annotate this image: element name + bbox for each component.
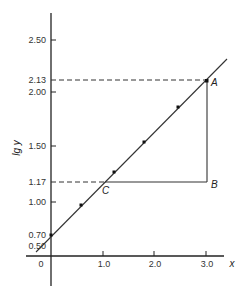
x-tick-origin: 0: [38, 259, 43, 269]
y-tick-2.50: 2.50: [28, 35, 46, 45]
x-tick-1.0: 1.0: [98, 259, 111, 269]
data-point: [50, 234, 53, 237]
data-point: [177, 106, 180, 109]
fit-line: [36, 59, 227, 252]
y-tick-2.00: 2.00: [28, 87, 46, 97]
y-tick-1.00: 1.00: [28, 197, 46, 207]
y-tick-1.17: 1.17: [28, 177, 46, 187]
point-b-label: B: [211, 179, 218, 190]
y-ticks: [51, 40, 56, 202]
chart: 2.50 2.13 2.00 1.50 1.17 1.00 0.70 0.50 …: [0, 0, 248, 297]
x-tick-3.0: 3.0: [201, 259, 214, 269]
data-point: [80, 204, 83, 207]
y-tick-0.50: 0.50: [28, 241, 46, 251]
point-a-label: A: [210, 77, 218, 88]
x-tick-2.0: 2.0: [149, 259, 162, 269]
data-point: [143, 141, 146, 144]
x-ticks: [103, 251, 206, 256]
data-point: [205, 79, 209, 83]
point-c-label: C: [102, 185, 110, 196]
x-axis-label: x: [229, 258, 236, 269]
y-tick-1.50: 1.50: [28, 141, 46, 151]
y-axis-label: lg y: [11, 139, 22, 156]
y-tick-0.70: 0.70: [28, 230, 46, 240]
y-tick-2.13: 2.13: [28, 75, 46, 85]
data-point: [113, 171, 116, 174]
